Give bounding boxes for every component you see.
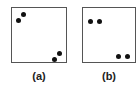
point xyxy=(125,54,130,59)
point xyxy=(57,51,62,56)
point xyxy=(52,57,57,62)
point xyxy=(16,18,21,23)
panel-b xyxy=(82,7,136,63)
panel-a xyxy=(11,7,67,63)
point xyxy=(116,54,121,59)
point xyxy=(97,19,102,24)
panel-a-label: (a) xyxy=(24,70,54,82)
point xyxy=(88,19,93,24)
panel-b-label: (b) xyxy=(94,70,124,82)
point xyxy=(21,12,26,17)
